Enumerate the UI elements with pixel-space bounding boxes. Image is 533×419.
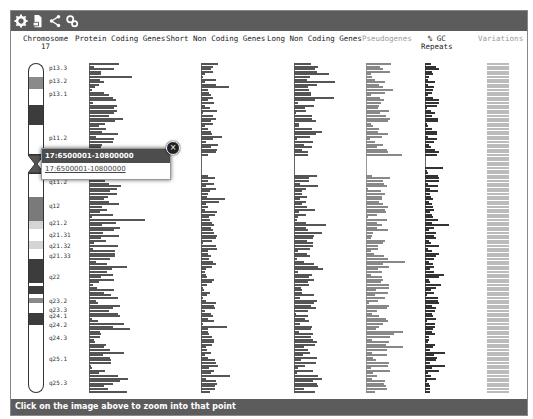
track-short-non-coding[interactable] xyxy=(201,63,251,393)
chromosome-band[interactable] xyxy=(28,286,44,294)
popup-region-link[interactable]: 17:6500001-10800000 xyxy=(42,163,170,175)
histogram-bar xyxy=(294,391,315,393)
track-variations[interactable] xyxy=(487,63,513,393)
header-gc-repeats: % GC Repeats xyxy=(421,35,453,51)
region-popup: 17:6500001-10800000 17:6500001-10800000 … xyxy=(41,148,171,180)
header-variations[interactable]: Variations xyxy=(478,35,523,43)
popup-title: 17:6500001-10800000 xyxy=(42,149,170,163)
band-label: q22 xyxy=(49,273,60,280)
chromosome-number: 17 xyxy=(23,43,68,51)
histogram-bar xyxy=(89,245,118,247)
band-label: q21.32 xyxy=(49,242,71,249)
track-protein-coding[interactable] xyxy=(89,63,159,393)
band-label: p13.2 xyxy=(49,77,67,84)
band-label: p13.3 xyxy=(49,64,67,71)
band-label: q24.2 xyxy=(49,321,67,328)
chromosome-band[interactable] xyxy=(28,249,44,259)
chromosome-band[interactable] xyxy=(28,63,44,77)
gear-icon[interactable] xyxy=(14,14,28,28)
chromosome-band[interactable] xyxy=(28,303,44,313)
chromosome-band[interactable] xyxy=(28,259,44,283)
band-label: q23.2 xyxy=(49,297,67,304)
chromosome-band[interactable] xyxy=(28,77,44,89)
chromosome-band[interactable] xyxy=(28,89,44,105)
band-label: q24.3 xyxy=(49,334,67,341)
close-icon[interactable]: × xyxy=(166,141,180,155)
chromosome-ideogram[interactable] xyxy=(28,63,44,393)
histogram-bar xyxy=(425,391,430,393)
histogram-bar xyxy=(425,154,437,156)
header-chromosome: Chromosome 17 xyxy=(23,35,68,51)
chromosome-band[interactable] xyxy=(28,105,44,125)
chromosome-band[interactable] xyxy=(28,325,44,341)
header-long-non-coding[interactable]: Long Non Coding Genes xyxy=(267,35,362,43)
track-pseudogenes[interactable] xyxy=(366,63,416,393)
header-pseudogenes[interactable]: Pseudogenes xyxy=(362,35,412,43)
histogram-bar xyxy=(89,99,116,101)
header-protein-coding[interactable]: Protein Coding Genes xyxy=(75,35,165,43)
track-gc-repeats[interactable] xyxy=(425,63,475,393)
histogram-bar xyxy=(201,391,210,393)
status-bar: Click on the image above to zoom into th… xyxy=(11,399,527,415)
histogram-bar xyxy=(487,391,509,393)
histogram-bar xyxy=(89,391,127,393)
histogram-bar xyxy=(201,154,208,156)
track-headers: Chromosome 17 Protein Coding Genes Short… xyxy=(11,35,527,59)
track-long-non-coding[interactable] xyxy=(294,63,344,393)
histogram-bar xyxy=(201,110,217,112)
chromosome-band[interactable] xyxy=(28,341,44,393)
header-short-non-coding[interactable]: Short Non Coding Genes xyxy=(166,35,265,43)
chromosome-band[interactable] xyxy=(28,313,44,325)
histogram-bar xyxy=(89,214,113,216)
band-label: p13.1 xyxy=(49,90,67,97)
band-label: q12 xyxy=(49,202,60,209)
histogram-bar xyxy=(366,154,402,156)
histogram-bar xyxy=(366,185,387,187)
chromosome-band[interactable] xyxy=(28,197,44,221)
config-icon[interactable] xyxy=(65,14,79,28)
band-label: q21.31 xyxy=(49,231,71,238)
histogram-bar xyxy=(89,362,111,364)
band-label: p11.2 xyxy=(49,134,67,141)
histogram-bar xyxy=(425,167,443,169)
share-icon[interactable] xyxy=(48,14,62,28)
band-label: q21.33 xyxy=(49,252,71,259)
chromosome-band[interactable] xyxy=(28,229,44,241)
track-area[interactable]: p13.3p13.2p13.1p11.2q11.2q12q21.2q21.31q… xyxy=(11,61,527,399)
histogram-bar xyxy=(294,370,313,372)
histogram-bar xyxy=(294,310,308,312)
band-label: q25.3 xyxy=(49,379,67,386)
export-icon[interactable] xyxy=(31,14,45,28)
histogram-bar xyxy=(366,391,375,393)
histogram-bar xyxy=(294,154,308,156)
chromosome-band[interactable] xyxy=(28,241,44,249)
band-label: q21.2 xyxy=(49,219,67,226)
band-label: q25.1 xyxy=(49,355,67,362)
band-label: q24.1 xyxy=(49,312,67,319)
histogram-bar xyxy=(294,268,323,270)
karyotype-panel: Chromosome 17 Protein Coding Genes Short… xyxy=(10,10,528,416)
histogram-bar xyxy=(89,315,120,317)
chromosome-band[interactable] xyxy=(28,221,44,229)
toolbar xyxy=(11,11,527,31)
repeats-label[interactable]: Repeats xyxy=(421,43,453,51)
